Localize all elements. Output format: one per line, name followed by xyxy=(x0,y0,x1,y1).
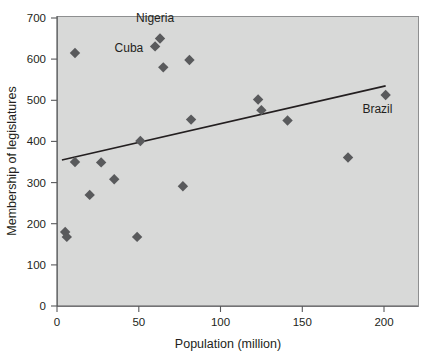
y-tick-label-400: 400 xyxy=(27,135,46,147)
point-label-brazil: Brazil xyxy=(362,102,392,116)
x-tick-label-100: 100 xyxy=(211,316,230,328)
x-axis-tick-labels: 0 50 100 150 200 xyxy=(54,316,394,328)
y-axis-ticks xyxy=(51,18,57,306)
y-tick-label-500: 500 xyxy=(27,94,46,106)
y-tick-label-200: 200 xyxy=(27,218,46,230)
plot-area-background xyxy=(58,17,419,307)
y-tick-label-600: 600 xyxy=(27,53,46,65)
y-tick-label-0: 0 xyxy=(40,300,46,312)
x-tick-label-50: 50 xyxy=(132,316,145,328)
y-axis-tick-labels: 0 100 200 300 400 500 600 700 xyxy=(27,12,46,312)
x-tick-label-0: 0 xyxy=(54,316,60,328)
y-tick-label-100: 100 xyxy=(27,259,46,271)
x-tick-label-200: 200 xyxy=(374,316,393,328)
scatter-plot-canvas: 0 100 200 300 400 500 600 700 0 50 100 1… xyxy=(0,0,429,356)
y-axis-title: Membership of legislatures xyxy=(5,86,19,235)
x-axis-title: Population (million) xyxy=(175,337,281,351)
scatter-chart-figure: 0 100 200 300 400 500 600 700 0 50 100 1… xyxy=(0,0,429,356)
point-label-cuba: Cuba xyxy=(115,41,144,55)
x-tick-label-150: 150 xyxy=(293,316,312,328)
y-tick-label-300: 300 xyxy=(27,177,46,189)
point-label-nigeria: Nigeria xyxy=(136,11,174,25)
y-tick-label-700: 700 xyxy=(27,12,46,24)
